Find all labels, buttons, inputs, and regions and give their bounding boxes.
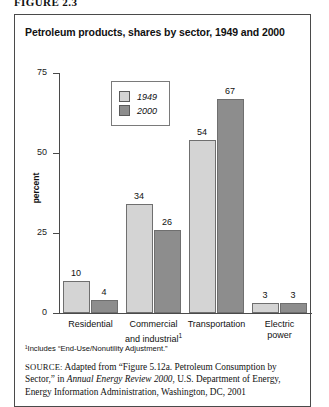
legend-swatch-1949 (119, 91, 130, 102)
figure-label: FIGURE 2.3 (14, 0, 77, 8)
y-axis-title: percent (31, 158, 41, 218)
y-axis-tick-label: 50 (23, 147, 47, 157)
source-italic-title: Annual Energy Review 2000 (67, 374, 173, 384)
x-axis-line (59, 313, 312, 314)
legend-label-2000: 2000 (137, 106, 157, 116)
bar-2000-electricpower (280, 303, 307, 313)
bar-value-label: 4 (89, 287, 119, 297)
chart-legend: 19492000 (111, 81, 170, 126)
bar-1949-transportation (189, 140, 216, 313)
x-axis-label-line: and industrial1 (108, 330, 200, 345)
bar-2000-residential (91, 300, 118, 313)
legend-swatch-2000 (119, 105, 130, 116)
y-axis-tick-label: 25 (23, 227, 47, 237)
bar-value-label: 67 (215, 86, 245, 96)
source-prefix: SOURCE: (25, 362, 63, 372)
legend-item-2000: 2000 (119, 105, 157, 116)
bar-value-label: 10 (61, 268, 91, 278)
legend-label-1949: 1949 (137, 92, 157, 102)
x-axis-label-line: power (234, 330, 326, 341)
bars-container: 1043426546733 (59, 73, 311, 313)
bar-value-label: 26 (152, 217, 182, 227)
bar-1949-electricpower (252, 303, 279, 313)
footnote: ¹Includes “End-Use/Nonutility Adjustment… (25, 344, 168, 353)
bar-value-label: 54 (187, 127, 217, 137)
y-axis-tick-label: 0 (23, 307, 47, 317)
legend-item-1949: 1949 (119, 91, 157, 102)
bar-2000-transportation (217, 99, 244, 313)
x-axis-label-line: Electric (234, 319, 326, 330)
figure-box: Petroleum products, shares by sector, 19… (14, 14, 311, 407)
bar-1949-residential (63, 281, 90, 313)
x-axis-label-electricpower: Electricpower (234, 319, 326, 341)
bar-2000-commercialandindustrial (154, 230, 181, 313)
bar-value-label: 3 (278, 290, 308, 300)
bar-1949-commercialandindustrial (126, 204, 153, 313)
bar-value-label: 3 (250, 290, 280, 300)
bar-value-label: 34 (124, 191, 154, 201)
source-note: SOURCE: Adapted from “Figure 5.12a. Petr… (25, 361, 302, 398)
y-axis-tick-label: 75 (23, 67, 47, 77)
